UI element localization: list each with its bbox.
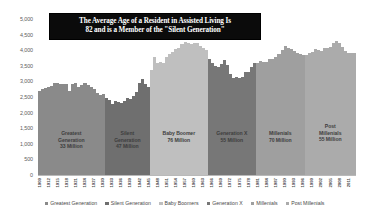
chart-title-line-1: The Average Age of a Resident in Assiste… xyxy=(54,17,256,26)
band-annotation: SilentGeneration47 Million xyxy=(105,130,150,150)
band-annotation: Generation X55 Million xyxy=(208,130,256,143)
band-annotation-population: 47 Million xyxy=(105,143,150,150)
y-axis-tick-label: 0 xyxy=(30,173,33,178)
legend-label: Greatest Generation xyxy=(50,201,97,206)
x-axis: 1909191219151918192119241927193019331936… xyxy=(38,178,356,198)
band-annotation: GreatestGeneration33 Million xyxy=(38,130,105,150)
chart-title-line-2: 82 and is a Member of the "Silent Genera… xyxy=(54,26,256,35)
y-axis-tick-label: 4,000 xyxy=(20,48,33,53)
y-axis-tick-label: 1,000 xyxy=(20,142,33,147)
chart-title-box: The Average Age of a Resident in Assiste… xyxy=(49,13,261,40)
y-axis-tick-label: 1,500 xyxy=(20,126,33,131)
band-annotation-population: 55 Million xyxy=(305,136,356,143)
band-annotation: PostMillenials55 Million xyxy=(305,123,356,143)
band-annotation: Baby Boomer76 Million xyxy=(150,130,208,143)
legend-item[interactable]: Silent Generation xyxy=(105,201,151,206)
band-annotation-population: 33 Million xyxy=(38,143,105,150)
x-axis-line xyxy=(38,175,356,176)
y-axis-tick-label: 3,500 xyxy=(20,64,33,69)
y-axis-tick-label: 5,000 xyxy=(20,17,33,22)
band-annotation-name-line1: Millenials xyxy=(256,130,304,137)
bar-column xyxy=(353,20,356,176)
legend-swatch-icon xyxy=(251,202,255,206)
legend-swatch-icon xyxy=(159,202,163,206)
plot-area: GreatestGeneration33 MillionSilentGenera… xyxy=(38,20,356,176)
band-annotation-name-line1: Silent xyxy=(105,130,150,137)
legend-label: Post Millenials xyxy=(291,201,324,206)
bar-series xyxy=(38,20,356,176)
y-axis-tick-label: 2,000 xyxy=(20,111,33,116)
y-axis: 5,0004,5004,0003,5003,0002,5002,0001,500… xyxy=(0,20,36,176)
band-annotation-name-line2: Generation xyxy=(38,137,105,144)
band-annotation-population: 55 Million xyxy=(208,137,256,144)
legend-item[interactable]: Millenials xyxy=(251,201,278,206)
generations-births-chart: 5,0004,5004,0003,5003,0002,5002,0001,500… xyxy=(0,0,369,221)
band-annotation-name-line2: Millenials xyxy=(305,130,356,137)
band-annotation-name-line2: Generation xyxy=(105,137,150,144)
legend-item[interactable]: Greatest Generation xyxy=(45,201,98,206)
legend-swatch-icon xyxy=(45,202,49,206)
chart-legend: Greatest GenerationSilent GenerationBaby… xyxy=(0,201,369,206)
band-annotation-name-line1: Greatest xyxy=(38,130,105,137)
legend-item[interactable]: Generation X xyxy=(207,201,243,206)
legend-label: Millenials xyxy=(256,201,277,206)
band-annotation-population: 76 Million xyxy=(150,137,208,144)
legend-swatch-icon xyxy=(105,202,109,206)
band-annotation-name-line1: Baby Boomer xyxy=(150,130,208,137)
band-annotation-name-line1: Generation X xyxy=(208,130,256,137)
band-annotation-population: 70 Million xyxy=(256,137,304,144)
band-annotation: Millenials70 Million xyxy=(256,130,304,143)
y-axis-tick-label: 4,500 xyxy=(20,33,33,38)
y-axis-tick-label: 2,500 xyxy=(20,95,33,100)
legend-swatch-icon xyxy=(207,202,211,206)
legend-item[interactable]: Post Millenials xyxy=(286,201,325,206)
legend-label: Generation X xyxy=(212,201,243,206)
x-axis-tick xyxy=(353,178,356,198)
y-axis-tick-label: 3,000 xyxy=(20,80,33,85)
legend-label: Baby Boomers xyxy=(165,201,199,206)
y-axis-tick-label: 500 xyxy=(24,158,33,163)
legend-label: Silent Generation xyxy=(111,201,151,206)
legend-swatch-icon xyxy=(286,202,290,206)
legend-item[interactable]: Baby Boomers xyxy=(159,201,199,206)
band-annotation-name-line1: Post xyxy=(305,123,356,130)
